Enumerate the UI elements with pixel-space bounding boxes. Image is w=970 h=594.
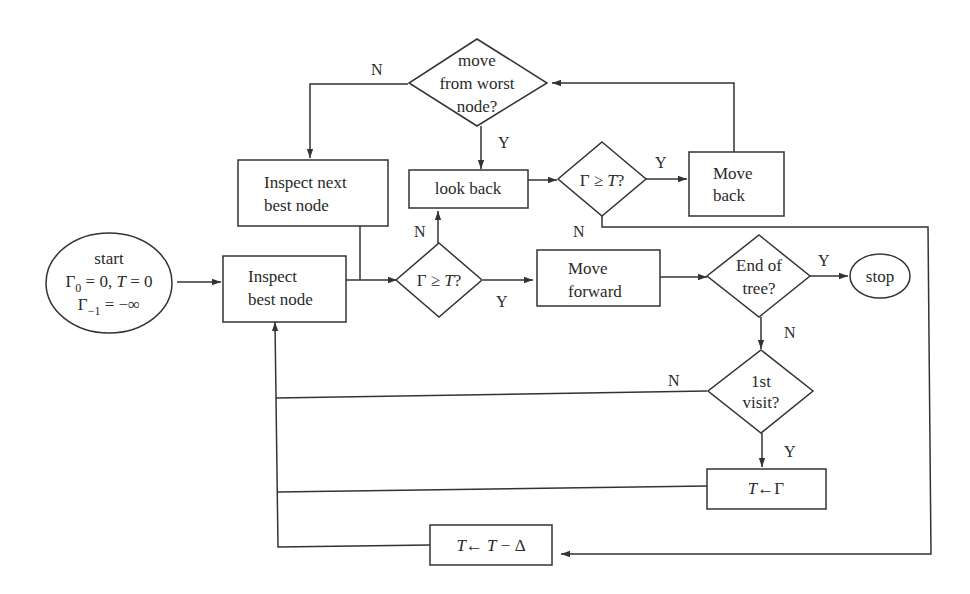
inspect-next-best-node: Inspect next best node — [238, 160, 388, 226]
look-back-label: look back — [435, 179, 502, 198]
label-worst-yes: Y — [498, 134, 510, 151]
move-from-worst-label-line3: node? — [457, 97, 498, 116]
edge-move-from-worst-no-to-inspect-next — [310, 84, 408, 158]
move-back-node: Move back — [689, 152, 784, 216]
label-worst-no: N — [371, 61, 383, 78]
label-visit-yes: Y — [784, 443, 796, 460]
set-t-to-gamma-node: T←Γ — [707, 469, 826, 509]
decrease-t-label: T← T − Δ — [456, 536, 525, 555]
decision-move-from-worst-node: move from worst node? — [409, 39, 547, 126]
end-of-tree-label-line1: End of — [736, 256, 782, 275]
label-gamma2-yes: Y — [655, 154, 667, 171]
decision-end-of-tree: End of tree? — [707, 235, 810, 317]
inspect-next-label-line1: Inspect next — [264, 173, 347, 192]
move-back-label-line1: Move — [713, 164, 753, 183]
decrease-t-node: T← T − Δ — [430, 525, 552, 565]
move-forward-node: Move forward — [537, 250, 660, 306]
decision-first-visit: 1st visit? — [708, 350, 813, 433]
start-node: start Γ0 = 0, T = 0 Γ−1 = −∞ — [46, 233, 172, 333]
edge-move-back-to-move-from-worst — [552, 83, 734, 152]
inspect-next-label-line2: best node — [264, 196, 329, 215]
edge-first-visit-no-to-inspect-best — [276, 391, 707, 398]
label-end-no: N — [784, 324, 796, 341]
inspect-best-node: Inspect best node — [223, 256, 346, 322]
label-gamma2-no: N — [573, 223, 585, 240]
move-forward-label-line2: forward — [568, 282, 622, 301]
label-gamma1-no: N — [414, 223, 426, 240]
label-gamma1-yes: Y — [496, 293, 508, 310]
first-visit-label-line2: visit? — [743, 393, 780, 412]
end-of-tree-label-line2: tree? — [742, 279, 775, 298]
decision-gamma-1-label: Γ ≥ T? — [417, 271, 462, 290]
first-visit-label-line1: 1st — [751, 372, 771, 391]
stop-label: stop — [866, 267, 894, 286]
label-visit-no: N — [668, 372, 680, 389]
flowchart: start Γ0 = 0, T = 0 Γ−1 = −∞ Inspect bes… — [0, 0, 970, 594]
look-back-node: look back — [409, 170, 528, 208]
move-forward-label-line1: Move — [568, 259, 608, 278]
inspect-best-label-line1: Inspect — [248, 267, 297, 286]
edge-set-t-to-inspect-best — [277, 486, 707, 492]
inspect-best-label-line2: best node — [248, 290, 313, 309]
move-from-worst-label-line2: from worst — [439, 74, 514, 93]
edge-decrease-t-to-inspect-best — [275, 322, 430, 547]
decision-gamma-2-label: Γ ≥ T? — [580, 171, 625, 190]
label-end-yes: Y — [818, 252, 830, 269]
start-label: start — [94, 249, 124, 268]
stop-node: stop — [850, 254, 910, 298]
move-back-label-line2: back — [713, 186, 746, 205]
set-t-to-gamma-label: T←Γ — [748, 479, 784, 498]
move-from-worst-label-line1: move — [458, 51, 496, 70]
decision-gamma-ge-t-1: Γ ≥ T? — [396, 243, 482, 317]
decision-gamma-ge-t-2: Γ ≥ T? — [558, 142, 646, 216]
